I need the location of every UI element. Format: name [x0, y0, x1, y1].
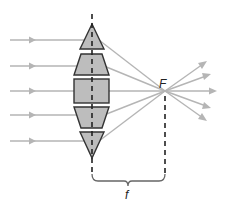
diverging-ray-1 — [165, 64, 203, 91]
diverging-ray-2 — [165, 76, 206, 91]
arrow-icon — [29, 88, 36, 95]
arrow-icon — [198, 113, 207, 121]
focal-length-label: f — [125, 188, 130, 202]
diverging-ray-4 — [165, 91, 206, 106]
lens-diagram: F f — [0, 0, 230, 207]
focal-length-brace — [92, 174, 165, 186]
arrow-icon — [29, 37, 36, 44]
diverging-ray-5 — [165, 91, 203, 118]
arrow-icon — [198, 61, 207, 69]
converging-ray-2 — [104, 66, 165, 91]
diverging-rays — [165, 61, 217, 121]
arrow-icon — [29, 63, 36, 70]
arrow-icon — [29, 112, 36, 119]
arrow-icon — [29, 138, 36, 145]
arrow-icon — [202, 102, 211, 109]
arrow-icon — [209, 88, 217, 95]
converging-ray-4 — [104, 91, 165, 115]
arrow-icon — [202, 73, 211, 80]
focal-point-label: F — [159, 77, 167, 91]
